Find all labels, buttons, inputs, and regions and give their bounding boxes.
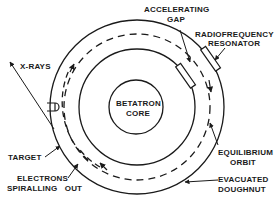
radiofrequency-resonator [201, 46, 221, 71]
label-rf-resonator-2: RESONATOR [208, 39, 260, 48]
label-target: TARGET [8, 153, 42, 162]
label-doughnut-2: DOUGHNUT [218, 185, 266, 194]
label-electrons-1: ELECTRONS [17, 174, 69, 183]
label-rf-resonator-1: RADIOFREQUENCY [195, 30, 274, 39]
label-core-2: CORE [126, 109, 150, 118]
label-equilibrium-2: ORBIT [230, 158, 256, 167]
label-x-rays: X-RAYS [20, 62, 51, 71]
label-equilibrium-1: EQUILIBRIUM [218, 148, 273, 157]
label-accelerating-gap-1: ACCELERATING [144, 5, 209, 14]
label-doughnut-1: EVACUATED [218, 175, 268, 184]
label-accelerating-gap-2: GAP [167, 15, 185, 24]
label-electrons-2: SPIRALLING OUT [7, 184, 82, 193]
accelerating-gap [176, 63, 196, 88]
target-device [47, 103, 59, 111]
label-core-1: BETATRON [116, 99, 161, 108]
betatron-diagram: X-RAYS ACCELERATING GAP RADIOFREQUENCY R… [0, 0, 280, 203]
x-rays-arrow [10, 62, 54, 129]
